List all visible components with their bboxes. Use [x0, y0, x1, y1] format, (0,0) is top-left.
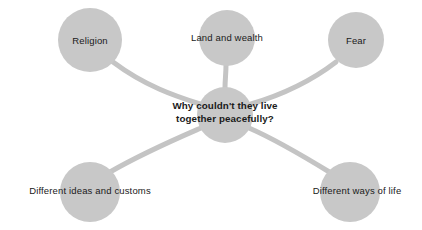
- nodes-group: [58, 8, 384, 222]
- branch-node-circle-fear[interactable]: [328, 12, 384, 68]
- connector-different-ways-of-life: [249, 128, 331, 173]
- branch-node-circle-different-ways-of-life[interactable]: [320, 162, 380, 222]
- branch-node-circle-land-and-wealth[interactable]: [199, 10, 255, 66]
- connector-religion: [113, 62, 200, 104]
- mind-map-diagram: ReligionLand and wealthFearDifferent ide…: [0, 0, 422, 230]
- mind-map-canvas: [0, 0, 422, 230]
- branch-node-circle-different-ideas-and-customs[interactable]: [60, 162, 120, 222]
- connector-fear: [251, 62, 336, 104]
- center-node-circle[interactable]: [197, 87, 253, 143]
- connector-land-and-wealth: [225, 65, 226, 88]
- branch-node-circle-religion[interactable]: [58, 8, 122, 72]
- connector-different-ideas-and-customs: [110, 128, 201, 172]
